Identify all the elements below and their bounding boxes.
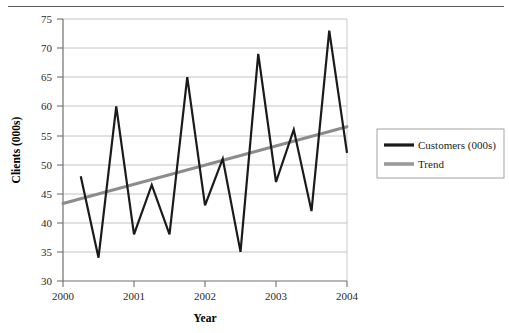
chart-legend: Customers (000s) Trend (377, 129, 504, 178)
x-tick-label: 2003 (265, 290, 288, 302)
line-chart: 75 70 65 60 55 50 45 40 35 30 2000 2001 … (0, 0, 509, 333)
x-tick-label: 2004 (336, 290, 359, 302)
chart-svg: 75 70 65 60 55 50 45 40 35 30 2000 2001 … (0, 0, 509, 333)
x-tick-label: 2002 (194, 290, 216, 302)
y-tick-label: 45 (41, 188, 53, 200)
chart-figure: 75 70 65 60 55 50 45 40 35 30 2000 2001 … (0, 0, 509, 333)
y-tick-label: 60 (41, 100, 53, 112)
x-tick-label: 2000 (52, 290, 75, 302)
y-tick-label: 65 (41, 71, 53, 83)
y-axis-ticks (57, 19, 63, 281)
y-tick-label: 75 (41, 13, 53, 25)
y-tick-label: 30 (41, 275, 53, 287)
x-axis-title: Year (194, 312, 217, 324)
y-tick-label: 50 (41, 159, 53, 171)
y-tick-label: 55 (41, 130, 53, 142)
x-tick-label: 2001 (123, 290, 145, 302)
y-tick-label: 40 (41, 217, 53, 229)
x-tick-labels: 2000 2001 2002 2003 2004 (52, 290, 359, 302)
x-axis-ticks (63, 281, 347, 287)
legend-label-trend: Trend (418, 158, 444, 170)
y-tick-label: 70 (41, 42, 53, 54)
y-tick-label: 35 (41, 246, 53, 258)
gridlines (63, 19, 347, 252)
legend-box (377, 129, 504, 178)
y-axis-title: Clients (000s) (10, 116, 23, 183)
y-tick-labels: 75 70 65 60 55 50 45 40 35 30 (41, 13, 53, 287)
legend-label-customers: Customers (000s) (418, 139, 496, 152)
customers-series-line (81, 31, 347, 258)
